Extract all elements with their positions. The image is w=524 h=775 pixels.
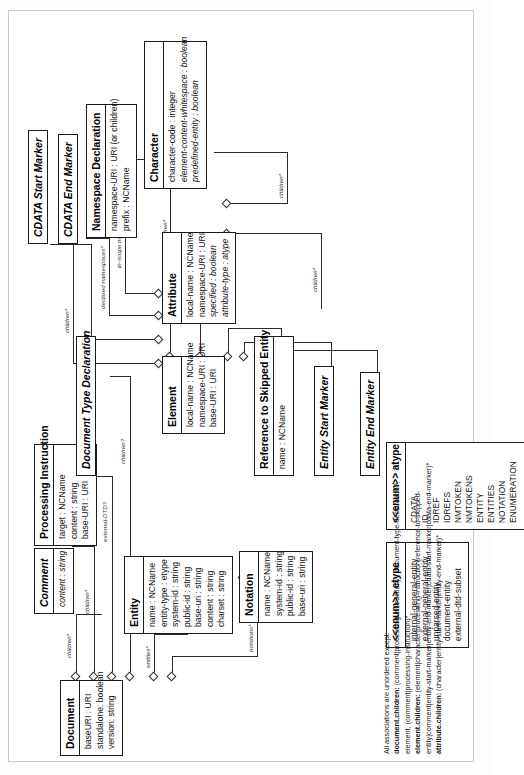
class-attr: name : NCName <box>147 563 159 627</box>
class-attrs-document: baseURI : URI standalone: boolean versio… <box>80 681 122 755</box>
class-title-character: Character <box>145 42 164 188</box>
class-attr: predefined-entity : boolean <box>190 48 202 182</box>
edge-element-cdata-end-run <box>91 244 92 340</box>
class-title-reference-to-skipped-entity: Reference to Skipped Entity <box>255 337 274 475</box>
aggregation-diamond-document-element <box>124 671 134 681</box>
edge-attribute-character <box>226 202 288 203</box>
footnote-line-document-children: document.children: (comment|processing-i… <box>392 454 413 754</box>
class-title-element: Element <box>163 357 182 433</box>
class-attrs-element: local-name : NCName namespace-URI : URI … <box>182 357 224 433</box>
class-attr: system-id : string <box>170 563 182 627</box>
class-attr: namespace-URI : URI <box>196 239 208 317</box>
class-title-namespace-declaration: Namespace Declaration <box>87 105 106 237</box>
class-attr: system-id : string <box>273 558 285 616</box>
edge-element-nsdecl-a <box>110 314 158 315</box>
class-attr: content : string <box>57 555 69 607</box>
class-box-namespace-declaration[interactable]: Namespace Declaration namespace-URI : UR… <box>86 104 137 238</box>
edge-element-refskipped-drop <box>228 327 282 328</box>
class-attr: NMTOKEN <box>452 449 463 523</box>
class-attr: ENTITY <box>475 449 486 523</box>
edge-attribute-character-riser <box>214 151 288 152</box>
class-attr: base-uri : string <box>193 563 205 627</box>
class-box-document-type-declaration[interactable]: Document Type Declaration <box>76 336 96 476</box>
class-attr: standalone: boolean <box>94 687 106 749</box>
class-title-entity-start-marker: Entity Start Marker <box>315 367 333 475</box>
class-box-reference-to-skipped-entity[interactable]: Reference to Skipped Entity name : NCNam… <box>254 336 294 476</box>
class-attr: charset : string <box>216 563 228 627</box>
class-attr: namespace-URI : URI <box>196 363 208 427</box>
rotated-diagram-stage: children* children* external-DTD? childr… <box>14 12 480 764</box>
class-box-element[interactable]: Element local-name : NCName namespace-UR… <box>162 356 225 434</box>
role-label-element-nsdecl-a: declared namespaces* <box>100 246 106 309</box>
class-attr: version: string <box>106 687 118 749</box>
class-title-cdata-start-marker: CDATA Start Marker <box>29 131 47 243</box>
class-attr: attribute-type : atype <box>219 239 231 317</box>
edge-document-notation-run <box>257 623 258 657</box>
aggregation-diamond-element-cdata-end <box>153 334 163 344</box>
footnote-line-attribute-children: attribute.children: (character|entity-st… <box>434 454 444 754</box>
class-attrs-namespace-declaration: namespace-URI : URI (or children) prefix… <box>106 105 136 237</box>
class-attr: name : NCName <box>262 558 274 616</box>
aggregation-diamond-element-entitystart <box>238 351 248 361</box>
footnote-label: document.children: <box>392 687 401 754</box>
role-label-document-pi: children* <box>84 589 90 613</box>
class-title-attribute: Attribute <box>163 233 182 323</box>
role-label-attribute-entitystart: children* <box>312 267 318 291</box>
class-attr: NMTOKENS <box>464 449 475 523</box>
class-attrs-character: character-code : integer element-content… <box>164 42 206 188</box>
edge-attribute-character-run <box>287 152 288 204</box>
class-box-character[interactable]: Character character-code : integer eleme… <box>144 41 207 189</box>
class-attr: ENTITIES <box>486 449 497 523</box>
edge-attribute-entitystart-run <box>321 233 322 309</box>
edge-attribute-entitystart <box>226 232 322 233</box>
role-label-document-element: children? <box>120 438 126 463</box>
footnote-line-element-children: element.children: (element|character|pro… <box>413 454 434 754</box>
class-title-cdata-end-marker: CDATA End Marker <box>59 135 77 243</box>
class-attr: character-code : integer <box>167 48 179 182</box>
role-label-element-cdata-start: children* <box>64 308 70 332</box>
class-attrs-entity: name : NCName entity-type : etype system… <box>144 557 232 633</box>
edge-document-notation-drop <box>172 655 258 656</box>
class-box-comment[interactable]: Comment content : string <box>34 548 74 614</box>
class-attr: name : NCName <box>277 343 289 469</box>
edge-document-dtd <box>112 476 113 676</box>
footnote-label: element.children: <box>413 694 422 754</box>
class-attr: entity-type : etype <box>158 563 170 627</box>
edge-element-nsdecl-a-run <box>109 238 110 316</box>
footnote-text: (character|entity-start-marker|entity-en… <box>434 534 443 692</box>
class-title-notation: Notation <box>240 552 259 622</box>
class-title-document: Document <box>61 681 80 755</box>
class-attr: namespace-URI : URI (or children) <box>109 111 121 231</box>
class-attr: base-uri : string <box>296 558 308 616</box>
edge-element-cdata-end <box>92 338 158 339</box>
class-title-processing-instruction: Processing Instruction <box>35 445 54 545</box>
edge-document-entity <box>154 634 155 676</box>
footnote-intro: All associations are unordered except: <box>382 454 392 754</box>
class-attr: specified : boolean <box>208 239 220 317</box>
class-attr: external-dtd-subset <box>452 549 463 641</box>
class-box-cdata-start-marker[interactable]: CDATA Start Marker <box>28 130 48 244</box>
class-title-entity: Entity <box>125 557 144 633</box>
edge-document-pi <box>94 546 95 676</box>
class-box-entity-start-marker[interactable]: Entity Start Marker <box>314 366 334 476</box>
aggregation-diamond-document-notation <box>166 671 176 681</box>
class-box-document[interactable]: Document baseURI : URI standalone: boole… <box>60 680 123 756</box>
class-attr: ENUMERATION <box>508 449 519 523</box>
aggregation-diamond-attribute-character <box>221 198 231 208</box>
class-box-entity-end-marker[interactable]: Entity End Marker <box>360 372 380 476</box>
class-box-notation[interactable]: Notation name : NCName system-id : strin… <box>239 551 313 623</box>
class-title-document-type-declaration: Document Type Declaration <box>77 337 95 475</box>
class-attr: public-id : string <box>285 558 297 616</box>
role-label-document-dtd: external-DTD? <box>102 501 108 541</box>
class-attr: base-URI : URI <box>208 363 220 427</box>
class-attr: baseURI : URI <box>83 687 95 749</box>
edge-document-comment <box>76 614 77 676</box>
diagram-footnote: All associations are unordered except: d… <box>382 454 445 754</box>
role-label-document-comment: children* <box>66 633 72 657</box>
class-box-cdata-end-marker[interactable]: CDATA End Marker <box>58 134 78 244</box>
class-box-attribute[interactable]: Attribute local-name : NCName namespace-… <box>162 232 236 324</box>
role-label-document-entity: entities* <box>145 645 151 667</box>
class-attr: element-content-whitespace : boolean <box>178 48 190 182</box>
class-box-entity[interactable]: Entity name : NCName entity-type : etype… <box>124 556 233 634</box>
